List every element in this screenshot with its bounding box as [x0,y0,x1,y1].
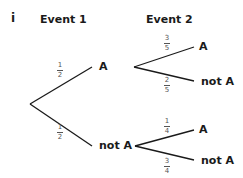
prob-root-A: 12 [57,62,63,79]
denominator: 2 [58,72,62,79]
leaf-notA-notA: not A [201,154,234,167]
denominator: 4 [165,128,169,135]
numerator: 2 [165,77,169,84]
denominator: 5 [165,45,169,52]
prob-notA-notA: 34 [164,158,170,175]
prob-A-A: 35 [164,35,170,52]
part-label: i [11,11,15,25]
leaf-A-notA: not A [201,75,234,88]
numerator: 3 [165,158,169,165]
leaf-A-A: A [199,40,208,53]
header-event-2: Event 2 [146,13,193,26]
prob-A-notA: 25 [164,77,170,94]
node-A: A [99,60,108,73]
prob-root-notA: 12 [57,124,63,141]
numerator: 1 [58,62,62,69]
numerator: 1 [165,118,169,125]
numerator: 3 [165,35,169,42]
prob-notA-A: 14 [164,118,170,135]
denominator: 2 [58,134,62,141]
denominator: 5 [165,87,169,94]
header-event-1: Event 1 [40,13,87,26]
denominator: 4 [165,168,169,175]
numerator: 1 [58,124,62,131]
leaf-notA-A: A [199,123,208,136]
node-notA: not A [99,139,132,152]
